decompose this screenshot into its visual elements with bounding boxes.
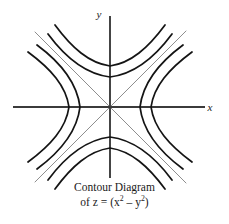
formula-prefix: of z = (x xyxy=(80,196,119,208)
formula-suffix: ) xyxy=(145,196,149,208)
caption-title: Contour Diagram xyxy=(0,180,229,195)
formula-middle: – y xyxy=(124,196,141,208)
contour-diagram-figure: x y Contour Diagram of z = (x2 – y2) xyxy=(0,0,229,224)
x-axis-label: x xyxy=(207,101,213,113)
caption-formula: of z = (x2 – y2) xyxy=(0,195,229,210)
y-axis-label: y xyxy=(96,8,102,20)
figure-caption: Contour Diagram of z = (x2 – y2) xyxy=(0,180,229,209)
